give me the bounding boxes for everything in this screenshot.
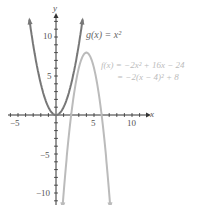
- f-equation-line1: f(x) = −2x² + 16x − 24: [101, 60, 184, 70]
- y-tick-label: 5: [47, 71, 52, 81]
- chart: y x −5 5 10 10 5 −5 −10 g(x) = x² f(x) =…: [0, 0, 206, 205]
- g-equation-label: g(x) = x²: [86, 29, 121, 40]
- f-equation-line2: = −2(x − 4)² + 8: [117, 72, 179, 82]
- x-tick-label: −5: [10, 118, 20, 128]
- x-tick-label: 10: [127, 118, 136, 128]
- y-tick-label: −10: [36, 188, 50, 198]
- y-axis-label: y: [53, 3, 57, 13]
- y-tick-label: 10: [43, 31, 52, 41]
- x-tick-label: 5: [91, 118, 96, 128]
- x-axis-label: x: [150, 109, 154, 119]
- y-tick-label: −5: [40, 150, 50, 160]
